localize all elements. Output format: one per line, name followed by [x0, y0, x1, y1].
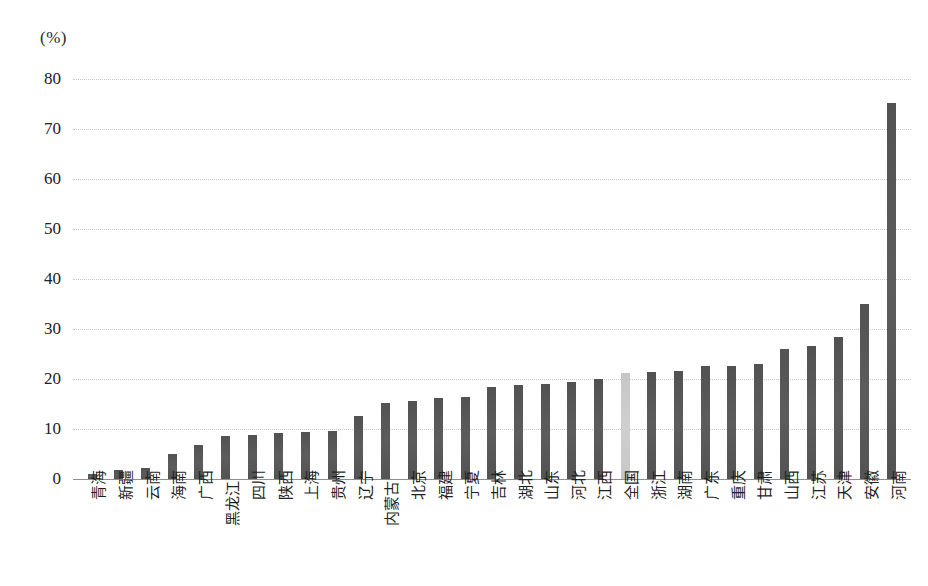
- bar-江西: [594, 379, 603, 480]
- x-axis-label-河南: 河南: [892, 470, 907, 500]
- x-axis-label-slot: 广西: [186, 483, 213, 583]
- bar-全国: [621, 373, 630, 479]
- y-axis-tick-50: 50: [15, 219, 61, 239]
- bar-slot: [159, 79, 186, 479]
- bars-container: [73, 79, 911, 479]
- y-axis-tick-0: 0: [15, 469, 61, 489]
- x-axis-label-slot: 青海: [79, 483, 106, 583]
- y-axis-tick-10: 10: [15, 419, 61, 439]
- bar-slot: [745, 79, 772, 479]
- x-axis-label-slot: 宁夏: [452, 483, 479, 583]
- bar-内蒙古: [381, 403, 390, 480]
- bar-重庆: [727, 366, 736, 480]
- y-axis-unit-label: (%): [40, 28, 67, 48]
- bar-slot: [132, 79, 159, 479]
- bar-chart: (%) 80706050403020100 青海新疆云南海南广西黑龙江四川陕西上…: [0, 0, 928, 586]
- bar-slot: [798, 79, 825, 479]
- bar-湖北: [514, 385, 523, 479]
- x-axis-label-slot: 河南: [878, 483, 905, 583]
- x-axis-label-slot: 辽宁: [345, 483, 372, 583]
- bar-slot: [79, 79, 106, 479]
- bar-slot: [825, 79, 852, 479]
- x-axis-label-slot: 湖南: [665, 483, 692, 583]
- bar-湖南: [674, 371, 683, 480]
- bar-吉林: [487, 387, 496, 479]
- x-axis-label-slot: 上海: [292, 483, 319, 583]
- bar-slot: [612, 79, 639, 479]
- x-axis-label-slot: 陕西: [265, 483, 292, 583]
- bar-slot: [452, 79, 479, 479]
- bar-slot: [479, 79, 506, 479]
- bar-宁夏: [461, 397, 470, 480]
- bar-slot: [505, 79, 532, 479]
- x-axis-label-slot: 河北: [559, 483, 586, 583]
- y-axis-tick-40: 40: [15, 269, 61, 289]
- x-axis-label-slot: 新疆: [106, 483, 133, 583]
- bar-slot: [692, 79, 719, 479]
- bar-slot: [559, 79, 586, 479]
- x-axis-label-slot: 四川: [239, 483, 266, 583]
- bar-slot: [665, 79, 692, 479]
- bar-slot: [106, 79, 133, 479]
- x-axis-labels: 青海新疆云南海南广西黑龙江四川陕西上海贵州辽宁内蒙古北京福建宁夏吉林湖北山东河北…: [73, 483, 911, 583]
- x-axis-label-slot: 重庆: [718, 483, 745, 583]
- bar-slot: [345, 79, 372, 479]
- bar-slot: [532, 79, 559, 479]
- bar-山东: [541, 384, 550, 479]
- bar-福建: [434, 398, 443, 480]
- bar-甘肃: [754, 364, 763, 479]
- bar-江苏: [807, 346, 816, 479]
- x-axis-label-slot: 浙江: [638, 483, 665, 583]
- bar-黑龙江: [221, 436, 230, 479]
- bar-河北: [567, 382, 576, 480]
- bar-slot: [772, 79, 799, 479]
- bar-slot: [399, 79, 426, 479]
- x-axis-label-slot: 内蒙古: [372, 483, 399, 583]
- x-axis-label-slot: 贵州: [319, 483, 346, 583]
- bar-slot: [372, 79, 399, 479]
- bar-slot: [852, 79, 879, 479]
- bar-slot: [292, 79, 319, 479]
- bar-山西: [780, 349, 789, 479]
- x-axis-label-slot: 江苏: [798, 483, 825, 583]
- x-axis-label-slot: 海南: [159, 483, 186, 583]
- x-axis-label-slot: 黑龙江: [212, 483, 239, 583]
- bar-slot: [878, 79, 905, 479]
- plot-area: [73, 79, 911, 479]
- x-axis-label-slot: 甘肃: [745, 483, 772, 583]
- x-axis-label-slot: 吉林: [479, 483, 506, 583]
- x-axis-label-slot: 北京: [399, 483, 426, 583]
- y-axis-tick-20: 20: [15, 369, 61, 389]
- bar-slot: [638, 79, 665, 479]
- bar-slot: [186, 79, 213, 479]
- x-axis-label-slot: 湖北: [505, 483, 532, 583]
- x-axis-label-slot: 山西: [772, 483, 799, 583]
- bar-天津: [834, 337, 843, 479]
- x-axis-label-slot: 福建: [425, 483, 452, 583]
- x-axis-label-slot: 山东: [532, 483, 559, 583]
- bar-北京: [408, 401, 417, 480]
- x-axis-label-slot: 天津: [825, 483, 852, 583]
- bar-slot: [425, 79, 452, 479]
- y-axis-tick-80: 80: [15, 69, 61, 89]
- bar-广东: [701, 366, 710, 479]
- y-axis-tick-70: 70: [15, 119, 61, 139]
- y-axis-tick-60: 60: [15, 169, 61, 189]
- bar-slot: [319, 79, 346, 479]
- x-axis-label-slot: 安徽: [852, 483, 879, 583]
- bar-slot: [212, 79, 239, 479]
- bar-slot: [265, 79, 292, 479]
- bar-slot: [585, 79, 612, 479]
- bar-河南: [887, 103, 896, 479]
- bar-安徽: [860, 304, 869, 479]
- x-axis-label-slot: 全国: [612, 483, 639, 583]
- bar-slot: [239, 79, 266, 479]
- x-axis-label-slot: 广东: [692, 483, 719, 583]
- x-axis-label-slot: 云南: [132, 483, 159, 583]
- bar-slot: [718, 79, 745, 479]
- x-axis-label-slot: 江西: [585, 483, 612, 583]
- bar-浙江: [647, 372, 656, 480]
- y-axis-tick-30: 30: [15, 319, 61, 339]
